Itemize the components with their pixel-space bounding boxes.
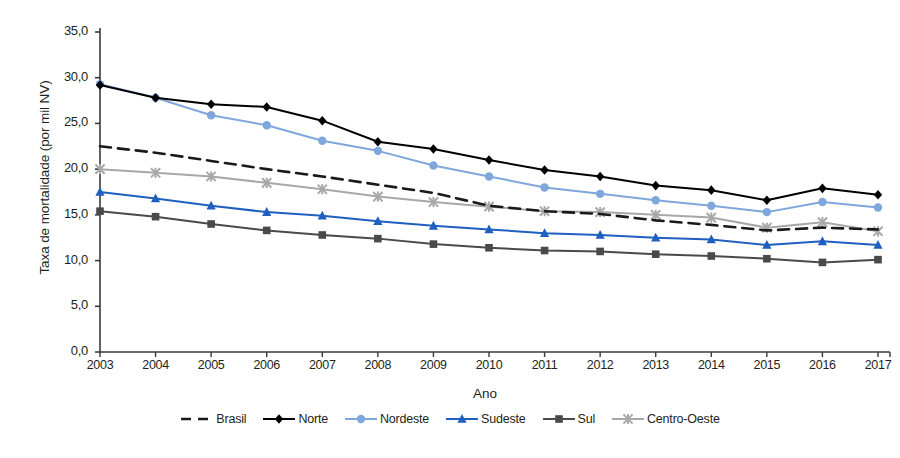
data-point-square [485, 244, 493, 252]
data-point-square [819, 259, 827, 267]
data-point-diamond [429, 144, 437, 154]
data-point-diamond [596, 172, 604, 182]
data-point-square [763, 255, 771, 263]
data-point-circle [374, 147, 382, 155]
legend-marker-diamond-icon [262, 412, 296, 426]
data-point-square [207, 220, 215, 228]
series-sul [96, 207, 882, 266]
data-point-circle [485, 172, 493, 180]
data-point-square [152, 213, 160, 221]
legend-label: Brasil [216, 412, 246, 426]
series-norte [96, 80, 882, 205]
data-point-diamond [275, 414, 283, 424]
data-point-square [96, 207, 104, 215]
legend-item-nordeste[interactable]: Nordeste [344, 412, 429, 426]
data-point-square [430, 240, 438, 248]
legend-item-norte[interactable]: Norte [262, 412, 328, 426]
data-point-square [374, 235, 382, 243]
data-point-square [874, 256, 882, 264]
data-point-circle [763, 208, 771, 216]
data-point-diamond [263, 102, 271, 112]
data-point-diamond [707, 185, 715, 195]
data-point-circle [318, 137, 326, 145]
legend-item-sudeste[interactable]: Sudeste [445, 412, 525, 426]
data-point-square [652, 250, 660, 258]
data-point-diamond [318, 116, 326, 126]
data-point-diamond [374, 137, 382, 147]
data-point-square [596, 248, 604, 256]
data-point-circle [429, 161, 437, 169]
data-point-diamond [485, 155, 493, 165]
legend-item-sul[interactable]: Sul [542, 412, 595, 426]
legend-label: Nordeste [380, 412, 429, 426]
data-point-circle [263, 121, 271, 129]
series-line [100, 85, 878, 200]
legend-item-brasil[interactable]: Brasil [180, 412, 246, 426]
data-point-circle [874, 203, 882, 211]
data-point-circle [540, 183, 548, 191]
data-point-circle [357, 415, 365, 423]
chart-legend: BrasilNorteNordesteSudesteSulCentro-Oest… [0, 412, 900, 426]
legend-marker-dashed-line-icon [180, 412, 214, 426]
data-point-circle [707, 202, 715, 210]
legend-label: Sudeste [481, 412, 525, 426]
series-line [100, 84, 878, 212]
data-point-circle [652, 196, 660, 204]
data-point-square [555, 415, 563, 423]
legend-marker-triangle-icon [445, 412, 479, 426]
legend-marker-x-icon [611, 412, 645, 426]
series-line [100, 211, 878, 262]
data-point-diamond [818, 184, 826, 194]
data-point-circle [818, 198, 826, 206]
series-nordeste [96, 80, 882, 216]
data-point-square [263, 227, 271, 235]
mortality-rate-line-chart: Taxa de mortalidade (por mil NV) Ano 35,… [0, 0, 900, 458]
legend-item-centro-oeste[interactable]: Centro-Oeste [611, 412, 720, 426]
data-point-square [707, 252, 715, 260]
data-point-diamond [540, 165, 548, 175]
data-point-circle [596, 190, 604, 198]
data-point-circle [207, 111, 215, 119]
data-point-square [318, 231, 326, 239]
plot-area [0, 0, 900, 458]
legend-label: Sul [578, 412, 595, 426]
data-point-diamond [652, 181, 660, 191]
data-point-diamond [874, 190, 882, 200]
data-point-square [541, 247, 549, 255]
series-sudeste [95, 187, 882, 249]
data-point-diamond [151, 93, 159, 103]
legend-label: Centro-Oeste [647, 412, 720, 426]
legend-marker-circle-icon [344, 412, 378, 426]
data-point-diamond [763, 195, 771, 205]
legend-marker-square-icon [542, 412, 576, 426]
legend-label: Norte [298, 412, 328, 426]
data-point-diamond [207, 99, 215, 109]
